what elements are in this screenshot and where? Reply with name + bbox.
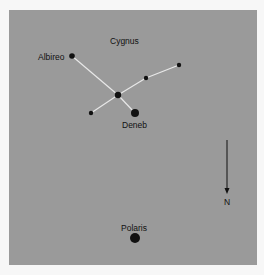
north-label: N bbox=[224, 197, 230, 207]
line-east-far bbox=[146, 65, 179, 78]
star-sadr bbox=[115, 92, 121, 98]
star-polaris bbox=[130, 233, 140, 243]
deneb-label: Deneb bbox=[122, 120, 147, 130]
arrow-down-icon bbox=[225, 188, 230, 194]
line-albireo-sadr bbox=[72, 56, 118, 95]
star-east bbox=[144, 76, 148, 80]
constellation-label: Cygnus bbox=[110, 36, 139, 46]
constellation-lines bbox=[72, 56, 179, 113]
cygnus-star-map: Cygnus Albireo Deneb Polaris N bbox=[0, 0, 264, 275]
stars bbox=[69, 53, 181, 243]
star-west bbox=[89, 111, 93, 115]
line-sadr-east bbox=[118, 78, 146, 95]
north-arrow: N bbox=[224, 140, 230, 207]
line-sadr-west bbox=[91, 95, 118, 113]
star-deneb bbox=[131, 109, 139, 117]
albireo-label: Albireo bbox=[38, 52, 65, 62]
star-albireo bbox=[69, 53, 75, 59]
star-far-east bbox=[177, 63, 181, 67]
polaris-label: Polaris bbox=[121, 223, 147, 233]
